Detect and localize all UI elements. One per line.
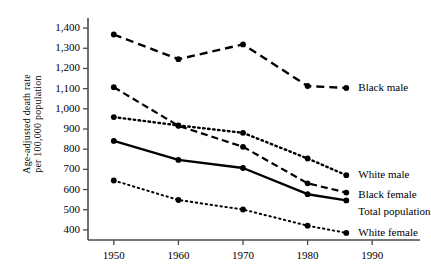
y-axis-tick-label: 1,200	[55, 61, 80, 73]
data-point	[111, 84, 117, 90]
y-axis-tick-label: 900	[64, 122, 81, 134]
data-point	[176, 197, 182, 203]
series-label-black-female: Black female	[358, 188, 416, 200]
x-axis-tick-label: 1970	[213, 249, 273, 261]
series-label-black-male: Black male	[358, 81, 408, 93]
data-point	[343, 230, 349, 236]
data-point	[305, 156, 311, 162]
data-point	[111, 178, 117, 184]
x-axis-tick-label: 1960	[148, 249, 208, 261]
series-black-female	[111, 84, 349, 195]
data-point	[343, 85, 349, 91]
data-point	[343, 198, 349, 204]
data-point	[240, 165, 246, 171]
y-axis-tick-label: 1,000	[55, 102, 80, 114]
series-line	[114, 181, 346, 233]
data-point	[176, 157, 182, 163]
data-point	[343, 172, 349, 178]
y-axis-tick-label: 1,300	[55, 41, 80, 53]
data-point	[240, 144, 246, 150]
data-point	[111, 32, 117, 38]
data-point	[240, 42, 246, 48]
series-total-population	[111, 138, 349, 203]
y-axis-tick-label: 800	[64, 142, 81, 154]
series-label-white-female: White female	[358, 226, 418, 238]
series-black-male	[111, 32, 349, 91]
data-point	[305, 83, 311, 89]
data-point	[305, 180, 311, 186]
data-point	[305, 223, 311, 229]
data-point	[305, 191, 311, 197]
y-axis-tick-label: 500	[64, 203, 81, 215]
y-axis-title-line2: per 100,000 population	[32, 75, 43, 172]
data-point	[176, 123, 182, 129]
x-axis-tick-label: 1990	[342, 249, 402, 261]
y-axis-tick-label: 1,400	[55, 21, 80, 33]
series-label-total-population: Total population	[358, 205, 430, 217]
y-axis-tick-label: 700	[64, 162, 81, 174]
x-axis-tick-label: 1950	[84, 249, 144, 261]
y-axis-tick-label: 400	[64, 223, 81, 235]
series-white-female	[111, 178, 349, 236]
y-axis-tick-label: 1,100	[55, 82, 80, 94]
series-white-male	[111, 114, 349, 178]
series-line	[114, 87, 346, 192]
data-point	[240, 207, 246, 213]
y-axis-tick-label: 600	[64, 183, 81, 195]
y-axis-title-line1: Age-adjusted death rate	[21, 74, 32, 174]
data-point	[240, 130, 246, 136]
data-point	[111, 138, 117, 144]
data-point	[111, 114, 117, 120]
y-axis-title: Age-adjusted death rate per 100,000 popu…	[21, 24, 43, 224]
series-label-white-male: White male	[358, 168, 409, 180]
data-point	[176, 56, 182, 62]
series-line	[114, 35, 346, 89]
data-point	[343, 190, 349, 196]
x-axis-tick-label: 1980	[278, 249, 338, 261]
